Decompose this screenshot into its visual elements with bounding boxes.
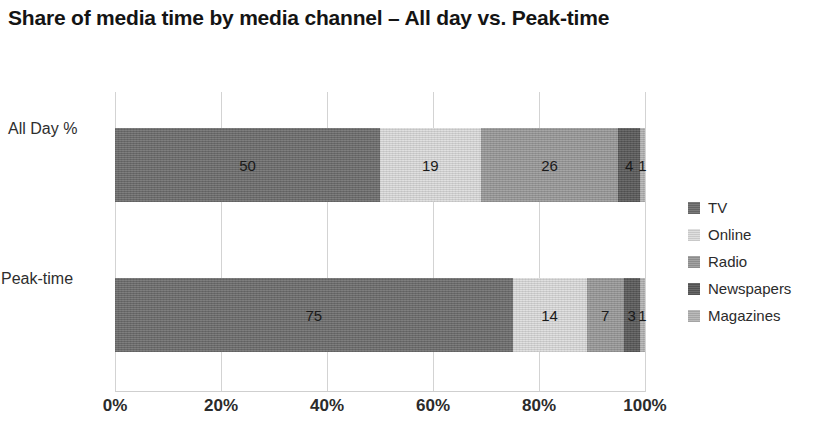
legend-item-magazines[interactable]: Magazines — [688, 302, 833, 329]
legend: TVOnlineRadioNewspapersMagazines — [688, 194, 833, 329]
legend-item-label: Radio — [708, 253, 747, 270]
bar-segment-value: 3 — [628, 307, 636, 324]
bar-segment-value: 1 — [638, 307, 646, 324]
x-axis-tick-label: 100% — [623, 396, 666, 416]
bar-segment-online: 14 — [513, 278, 587, 352]
legend-item-radio[interactable]: Radio — [688, 248, 833, 275]
bar-segment-radio: 26 — [481, 128, 619, 202]
bar-segment-newspapers: 4 — [618, 128, 639, 202]
legend-item-label: Online — [708, 226, 751, 243]
x-axis: 0%20%40%60%80%100% — [115, 396, 645, 426]
y-axis-label-all-day: All Day % — [8, 120, 118, 138]
table-row: 50192641 — [115, 128, 645, 202]
x-axis-tick-label: 60% — [416, 396, 450, 416]
bar-segment-tv: 75 — [115, 278, 513, 352]
bar-segment-value: 26 — [541, 157, 558, 174]
legend-item-tv[interactable]: TV — [688, 194, 833, 221]
plot-area: 50192641 7514731 — [115, 92, 645, 392]
legend-item-label: Magazines — [708, 307, 781, 324]
legend-item-newspapers[interactable]: Newspapers — [688, 275, 833, 302]
bar-segment-value: 50 — [239, 157, 256, 174]
y-axis-label-peak-time: Peak-time — [1, 270, 111, 288]
bar-segment-magazines: 1 — [640, 278, 645, 352]
bar-segment-value: 1 — [638, 157, 646, 174]
gridline — [645, 92, 646, 392]
legend-swatch-icon — [688, 202, 700, 214]
bar-segment-value: 14 — [541, 307, 558, 324]
bar-segment-tv: 50 — [115, 128, 380, 202]
axis-baseline — [115, 391, 645, 392]
bar-segment-radio: 7 — [587, 278, 624, 352]
legend-swatch-icon — [688, 310, 700, 322]
table-row: 7514731 — [115, 278, 645, 352]
legend-swatch-icon — [688, 229, 700, 241]
legend-item-label: Newspapers — [708, 280, 791, 297]
bar-segment-value: 75 — [305, 307, 322, 324]
bar-segment-magazines: 1 — [640, 128, 645, 202]
x-axis-tick-label: 80% — [522, 396, 556, 416]
bar-segment-value: 4 — [625, 157, 633, 174]
x-axis-tick-label: 40% — [310, 396, 344, 416]
bar-segment-online: 19 — [380, 128, 481, 202]
legend-item-online[interactable]: Online — [688, 221, 833, 248]
legend-swatch-icon — [688, 283, 700, 295]
chart-title: Share of media time by media channel – A… — [8, 6, 828, 30]
x-axis-tick-label: 0% — [103, 396, 128, 416]
bar-segment-value: 7 — [601, 307, 609, 324]
legend-item-label: TV — [708, 199, 727, 216]
x-axis-tick-label: 20% — [204, 396, 238, 416]
legend-swatch-icon — [688, 256, 700, 268]
bar-segment-value: 19 — [422, 157, 439, 174]
